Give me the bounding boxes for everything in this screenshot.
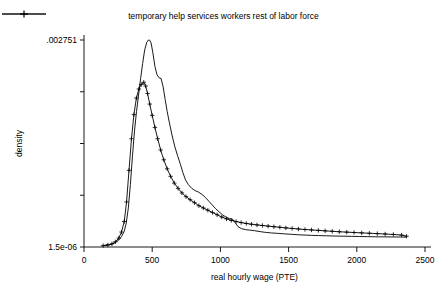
series-line-1 bbox=[103, 82, 406, 245]
y-axis-title: density bbox=[14, 129, 24, 157]
x-axis-tick-label: 0 bbox=[82, 255, 87, 265]
x-axis-tick-label: 500 bbox=[145, 255, 159, 265]
y-axis-tick-label-min: 1.5e-06 bbox=[48, 242, 77, 252]
axis-labels-group: .0027511.5e-0605001000150020002500real h… bbox=[14, 35, 435, 282]
x-axis-tick-label: 1500 bbox=[279, 255, 298, 265]
x-axis-tick-label: 1000 bbox=[211, 255, 230, 265]
y-axis-tick-label-max: .002751 bbox=[46, 35, 77, 45]
x-axis-tick-label: 2500 bbox=[416, 255, 435, 265]
series-line-0 bbox=[103, 40, 406, 246]
series-markers-1 bbox=[101, 80, 409, 248]
x-axis-tick-label: 2000 bbox=[347, 255, 366, 265]
axes-group bbox=[80, 35, 431, 252]
density-chart: temporary help services workers rest of … bbox=[0, 0, 447, 293]
plot-area: .0027511.5e-0605001000150020002500real h… bbox=[0, 0, 447, 293]
series-group bbox=[101, 40, 409, 248]
x-axis-title: real hourly wage (PTE) bbox=[211, 272, 298, 282]
